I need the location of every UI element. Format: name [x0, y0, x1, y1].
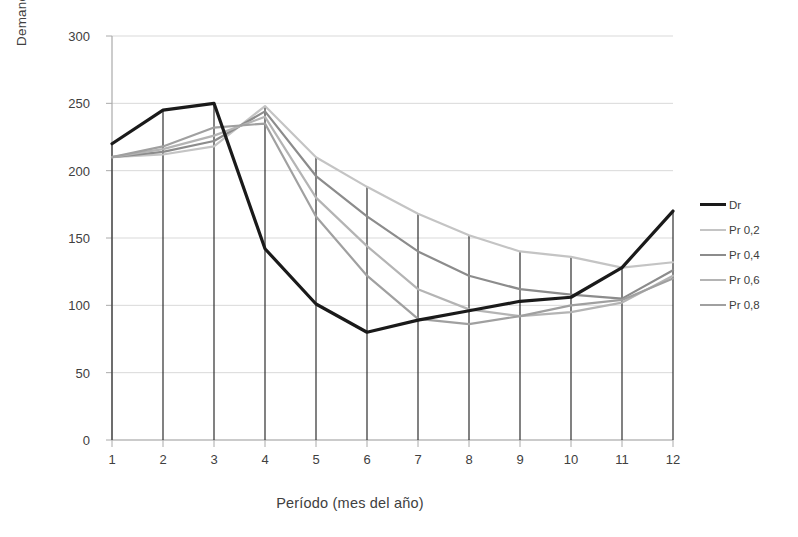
legend-swatch-line	[700, 279, 726, 281]
legend-item[interactable]: Pr 0,2	[700, 217, 796, 242]
legend-swatch-line	[700, 304, 726, 306]
series-line-pr-0-2	[112, 106, 673, 268]
x-axis-tick-label: 12	[658, 452, 688, 467]
legend-item-label: Pr 0,4	[729, 249, 760, 261]
y-axis-title: Demanda	[14, 0, 36, 46]
x-axis-tick-label: 6	[352, 452, 382, 467]
legend-item-label: Pr 0,6	[729, 274, 760, 286]
legend-item[interactable]: Pr 0,4	[700, 242, 796, 267]
legend-item-label: Pr 0,8	[729, 299, 760, 311]
x-axis-tick-label: 2	[148, 452, 178, 467]
y-axis-tick-label: 250	[46, 96, 90, 111]
y-axis-tick-label: 0	[46, 433, 90, 448]
series-line-pr-0-8	[112, 124, 673, 325]
y-axis-tick-label: 150	[46, 231, 90, 246]
x-axis-tick-label: 10	[556, 452, 586, 467]
legend-swatch-line	[700, 254, 726, 256]
x-axis-tick-label: 4	[250, 452, 280, 467]
y-axis-tick-label: 300	[46, 29, 90, 44]
legend-item[interactable]: Dr	[700, 192, 796, 217]
chart-container: Demanda 050100150200250300 Período (mes …	[0, 0, 798, 537]
y-axis-tick-label: 100	[46, 298, 90, 313]
legend-swatch-line	[700, 203, 726, 206]
x-axis-tick-label: 5	[301, 452, 331, 467]
y-axis-tick-label: 200	[46, 163, 90, 178]
x-axis-tick-label: 9	[505, 452, 535, 467]
legend-item-label: Dr	[729, 199, 741, 211]
x-axis-title: Período (mes del año)	[0, 495, 700, 511]
x-axis-tick-label: 8	[454, 452, 484, 467]
x-axis-tick-label: 11	[607, 452, 637, 467]
chart-legend: DrPr 0,2Pr 0,4Pr 0,6Pr 0,8	[700, 192, 796, 317]
legend-item-label: Pr 0,2	[729, 224, 760, 236]
x-axis-tick-label: 1	[97, 452, 127, 467]
legend-item[interactable]: Pr 0,6	[700, 267, 796, 292]
x-axis-tick-label: 3	[199, 452, 229, 467]
x-axis-tick-label: 7	[403, 452, 433, 467]
y-axis-tick-labels: 050100150200250300	[44, 0, 90, 537]
legend-item[interactable]: Pr 0,8	[700, 292, 796, 317]
legend-swatch-line	[700, 229, 726, 231]
y-axis-tick-label: 50	[46, 365, 90, 380]
